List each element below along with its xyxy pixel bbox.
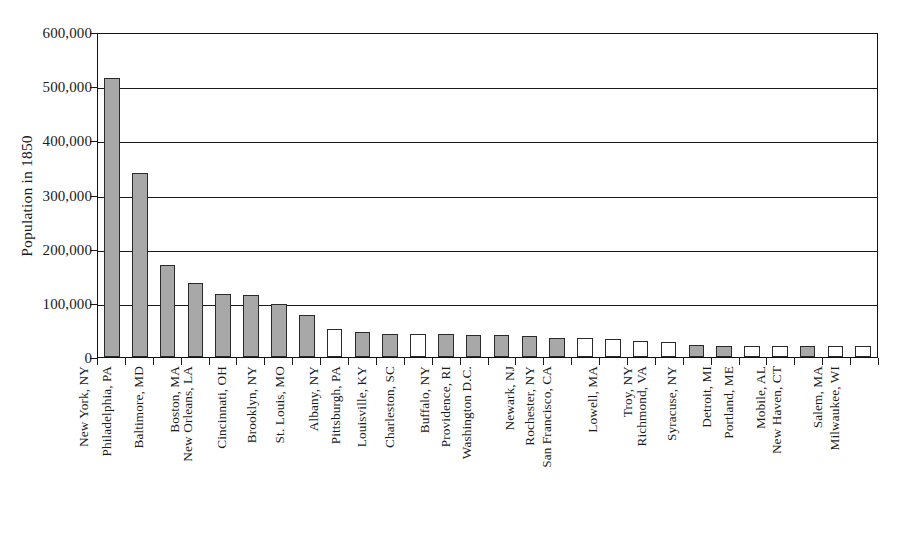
x-axis-tick-label-text: Newark, NJ — [502, 366, 518, 431]
x-axis-tick-label: Syracuse, NY — [664, 291, 680, 366]
y-axis-tick-label: 200,000 — [43, 241, 92, 258]
x-axis-tick-mark — [376, 358, 377, 365]
x-axis-tick-labels: New York, NYPhiladelphia, PABaltimore, M… — [97, 366, 878, 531]
x-axis-tick-label-text: Richmond, VA — [633, 366, 649, 447]
x-axis-tick-label: New York, NY — [75, 285, 91, 366]
x-axis-tick-label: Salem, MA — [810, 304, 826, 366]
x-axis-tick-label-text: Washington D.C. — [460, 366, 476, 459]
x-axis-tick-label-text: St. Louis, MO — [272, 366, 288, 443]
y-axis-tick-label: 300,000 — [43, 187, 92, 204]
x-axis-tick-mark — [348, 358, 349, 365]
x-axis-tick-label-text: Pittsburgh, PA — [328, 366, 344, 444]
x-axis-tick-label-text: Albany, NY — [306, 366, 322, 431]
x-axis-tick-label: Richmond, VA — [633, 285, 649, 366]
x-axis-tick-label: Louisville, KY — [354, 285, 370, 366]
x-axis-tick-mark — [488, 358, 489, 365]
x-axis-tick-label: New Orleans, LA — [180, 270, 196, 366]
x-axis-tick-label: Pittsburgh, PA — [328, 288, 344, 366]
x-axis-tick-mark — [209, 358, 210, 365]
x-axis-tick-label: San Francisco, CA — [539, 264, 555, 366]
y-axis-label-container: Population in 1850 — [14, 33, 40, 358]
bar — [605, 339, 621, 357]
x-label-slot: Milwaukee, WI — [850, 366, 878, 531]
x-axis-tick-label: Cincinnati, OH — [214, 283, 230, 366]
x-axis-tick-mark — [125, 358, 126, 365]
x-axis-tick-label-text: Portland, ME — [721, 366, 737, 439]
x-axis-tick-label: Philadelphia, PA — [99, 276, 115, 367]
x-axis-tick-mark — [153, 358, 154, 365]
y-axis-label: Population in 1850 — [18, 135, 36, 257]
x-axis-tick-mark — [404, 358, 405, 365]
x-axis-tick-label: St. Louis, MO — [272, 289, 288, 366]
x-axis-tick-label-text: Detroit, MI — [699, 366, 715, 428]
x-axis-tick-mark — [655, 358, 656, 365]
x-axis-tick-label-text: Lowell, MA — [585, 366, 601, 433]
x-axis-tick-label: Brooklyn, NY — [245, 289, 261, 366]
x-axis-tick-mark — [571, 358, 572, 365]
x-axis-tick-mark — [683, 358, 684, 365]
bar — [855, 346, 871, 357]
x-axis-tick-label-text: Providence, RI — [438, 366, 454, 447]
x-axis-tick-label-text: San Francisco, CA — [539, 366, 555, 468]
x-axis-tick-label: Detroit, MI — [699, 304, 715, 366]
x-axis-tick-label: New Haven, CT — [769, 278, 785, 366]
x-axis-tick-label-text: New York, NY — [75, 366, 91, 447]
x-axis-tick-label-text: Salem, MA — [810, 366, 826, 428]
bar-slot — [849, 34, 877, 357]
x-axis-tick-label-text: Brooklyn, NY — [245, 366, 261, 443]
x-axis-tick-label: Rochester, NY — [522, 286, 538, 366]
x-axis-tick-label: Providence, RI — [438, 285, 454, 366]
x-axis-tick-label: Newark, NJ — [502, 301, 518, 366]
x-axis-tick-mark — [739, 358, 740, 365]
x-axis-tick-label-text: Baltimore, MD — [130, 366, 146, 449]
x-axis-tick-mark — [850, 358, 851, 365]
bar-slot — [599, 34, 627, 357]
x-axis-tick-label-text: New Orleans, LA — [180, 366, 196, 462]
x-axis-tick-mark — [236, 358, 237, 365]
x-axis-tick-label-text: Louisville, KY — [354, 366, 370, 447]
x-axis-tick-label: Albany, NY — [306, 301, 322, 366]
x-axis-tick-label-text: Philadelphia, PA — [99, 366, 115, 457]
x-axis-tick-label-text: Charleston, SC — [382, 366, 398, 448]
x-axis-tick-label: Baltimore, MD — [130, 283, 146, 366]
x-axis-tick-label: Mobile, AL — [754, 303, 770, 366]
y-axis-tick-label: 400,000 — [43, 133, 92, 150]
x-axis-tick-mark — [264, 358, 265, 365]
x-axis-tick-label: Portland, ME — [721, 293, 737, 366]
x-axis-tick-label: Milwaukee, WI — [827, 281, 843, 366]
x-axis-tick-mark — [878, 358, 879, 365]
x-axis-tick-label-text: Syracuse, NY — [664, 366, 680, 441]
x-axis-tick-label: Buffalo, NY — [417, 299, 433, 366]
population-bar-chart: Population in 1850 0100,000200,000300,00… — [0, 0, 915, 539]
x-axis-tick-label-text: Cincinnati, OH — [214, 366, 230, 449]
y-axis-tick-label: 500,000 — [43, 79, 92, 96]
x-axis-tick-mark — [292, 358, 293, 365]
x-axis-tick-label: Lowell, MA — [585, 299, 601, 366]
x-axis-tick-label: Charleston, SC — [382, 284, 398, 366]
x-axis-tick-label-text: New Haven, CT — [769, 366, 785, 454]
x-axis-tick-label-text: Buffalo, NY — [417, 366, 433, 433]
y-axis-tick-label: 600,000 — [43, 25, 92, 42]
y-axis-tick-labels: 0100,000200,000300,000400,000500,000600,… — [40, 0, 92, 539]
x-axis-tick-label-text: Rochester, NY — [522, 366, 538, 446]
x-axis-tick-mark — [794, 358, 795, 365]
x-axis-tick-label-text: Mobile, AL — [754, 366, 770, 429]
x-axis-tick-label: Washington D.C. — [460, 273, 476, 366]
x-axis-tick-label-text: Milwaukee, WI — [827, 366, 843, 451]
